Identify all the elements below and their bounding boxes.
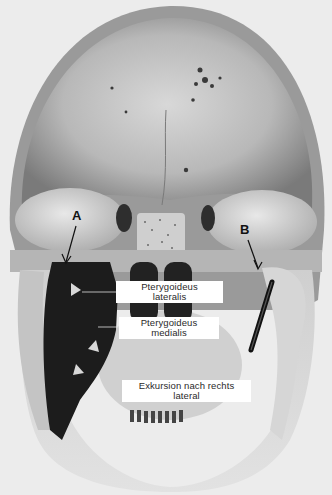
label-pterygoideus-lateralis: Pterygoideus lateralis <box>116 281 223 303</box>
skull-illustration <box>0 0 332 495</box>
right-orbit-shadow <box>201 205 215 231</box>
right-temporal-bulge <box>207 190 317 254</box>
label-line-2: lateralis <box>118 292 221 302</box>
label-line-2: lateral <box>124 391 249 401</box>
label-pterygoideus-medialis: Pterygoideus medialis <box>119 317 219 339</box>
left-temporal-bulge <box>15 188 125 252</box>
left-orbit-shadow <box>116 204 132 232</box>
marker-a: A <box>72 208 81 223</box>
label-line-2: medialis <box>121 328 217 338</box>
marker-b: B <box>240 222 249 237</box>
label-exkursion-lateral: Exkursion nach rechts lateral <box>122 380 251 402</box>
